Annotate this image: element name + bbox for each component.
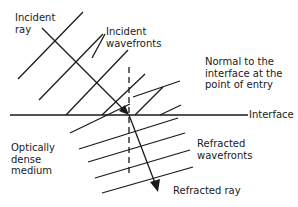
refracted-wavefront-1 xyxy=(70,104,130,133)
normal-pointer xyxy=(133,81,180,97)
label-incident-ray: Incident ray xyxy=(15,12,55,35)
label-refracted-ray: Refracted ray xyxy=(173,185,241,197)
incident-wavefronts-pointer xyxy=(92,34,105,58)
incident-wavefront-2 xyxy=(39,34,103,100)
label-normal: Normal to the interface at the point of … xyxy=(205,56,282,91)
label-medium: Optically dense medium xyxy=(11,142,55,177)
label-interface: Interface xyxy=(249,109,294,121)
refracted-wavefront-4 xyxy=(95,150,190,178)
refraction-diagram: Incident ray Incident wavefronts Normal … xyxy=(0,0,298,207)
refracted-wavefront-6 xyxy=(160,105,181,115)
refracted-wavefront-3 xyxy=(88,133,185,162)
label-incident-wavefronts: Incident wavefronts xyxy=(106,26,161,49)
label-refracted-wavefronts: Refracted wavefronts xyxy=(197,138,252,161)
refracted-ray-arrowhead xyxy=(150,179,160,192)
